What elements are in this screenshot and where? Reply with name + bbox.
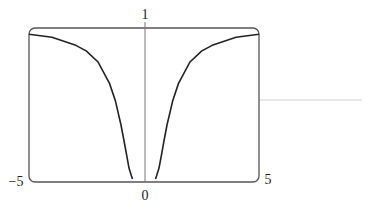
chart-canvas: 1 0 −5 5 xyxy=(0,0,368,215)
y-top-label: 1 xyxy=(142,7,149,22)
function-curve xyxy=(29,34,259,179)
x-left-label: −5 xyxy=(9,174,24,189)
x-origin-label: 0 xyxy=(142,188,149,203)
x-right-label: 5 xyxy=(265,172,272,187)
plot-frame xyxy=(29,28,259,182)
